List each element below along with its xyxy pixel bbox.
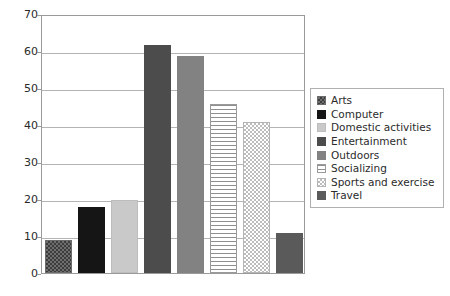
- bar-computer[interactable]: [78, 207, 104, 273]
- bar-entertainment[interactable]: [144, 45, 170, 273]
- y-axis-tick-label: 70: [6, 9, 38, 20]
- y-axis-tick-label: 60: [6, 46, 38, 57]
- legend-swatch-icon: [317, 178, 326, 187]
- legend-item[interactable]: Outdoors: [317, 148, 438, 162]
- bar-chart: 010203040506070 ArtsComputerDomestic act…: [0, 0, 450, 296]
- legend-swatch-icon: [317, 96, 326, 105]
- legend-swatch-icon: [317, 110, 326, 119]
- bar-arts[interactable]: [45, 240, 71, 273]
- legend-item[interactable]: Entertainment: [317, 135, 438, 149]
- legend-item[interactable]: Travel: [317, 189, 438, 203]
- y-axis-tick-mark: [37, 274, 41, 275]
- legend-swatch-icon: [317, 123, 326, 132]
- legend-item[interactable]: Arts: [317, 94, 438, 108]
- legend-item-label: Computer: [331, 109, 383, 120]
- y-axis-tick-label: 30: [6, 157, 38, 168]
- y-axis-tick-label: 10: [6, 231, 38, 242]
- legend-swatch-icon: [317, 137, 326, 146]
- y-axis-tick-label: 20: [6, 194, 38, 205]
- y-axis-tick-label: 40: [6, 120, 38, 131]
- legend-item[interactable]: Domestic activities: [317, 121, 438, 135]
- y-axis-tick-mark: [37, 126, 41, 127]
- legend: ArtsComputerDomestic activitiesEntertain…: [310, 88, 444, 208]
- legend-item-label: Arts: [331, 95, 352, 106]
- y-axis-tick-label: 50: [6, 83, 38, 94]
- y-axis-tick-mark: [37, 237, 41, 238]
- legend-item[interactable]: Sports and exercise: [317, 176, 438, 190]
- bar-socializing[interactable]: [210, 104, 236, 273]
- legend-item[interactable]: Socializing: [317, 162, 438, 176]
- bar-sports-and-exercise[interactable]: [243, 122, 269, 273]
- legend-item-label: Outdoors: [331, 150, 379, 161]
- legend-item-label: Domestic activities: [331, 122, 431, 133]
- y-axis: 010203040506070: [0, 0, 38, 296]
- legend-item[interactable]: Computer: [317, 108, 438, 122]
- bars-group: [42, 16, 304, 273]
- legend-swatch-icon: [317, 164, 326, 173]
- legend-item-label: Sports and exercise: [331, 177, 434, 188]
- legend-item-label: Entertainment: [331, 136, 407, 147]
- y-axis-tick-mark: [37, 89, 41, 90]
- plot-area: [41, 15, 305, 274]
- bar-domestic-activities[interactable]: [111, 200, 137, 273]
- legend-swatch-icon: [317, 151, 326, 160]
- y-axis-tick-mark: [37, 15, 41, 16]
- y-axis-tick-mark: [37, 163, 41, 164]
- y-axis-tick-mark: [37, 52, 41, 53]
- bar-outdoors[interactable]: [177, 56, 203, 273]
- legend-item-label: Socializing: [331, 163, 387, 174]
- y-axis-tick-label: 0: [6, 268, 38, 279]
- bar-travel[interactable]: [276, 233, 302, 273]
- legend-item-label: Travel: [331, 190, 362, 201]
- y-axis-tick-mark: [37, 200, 41, 201]
- legend-swatch-icon: [317, 191, 326, 200]
